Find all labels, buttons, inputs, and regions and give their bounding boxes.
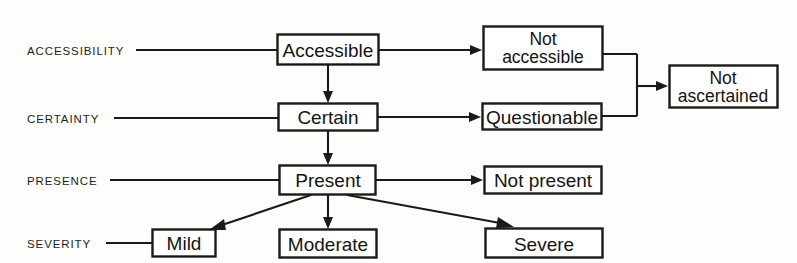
edge-present-to-mild bbox=[222, 195, 311, 225]
node-certain-label: Certain bbox=[297, 107, 358, 128]
node-moderate-label: Moderate bbox=[288, 234, 368, 255]
node-not-ascertained[interactable]: Not ascertained bbox=[670, 66, 778, 108]
arrowhead-certain-to-present bbox=[323, 153, 333, 165]
node-questionable[interactable]: Questionable bbox=[483, 104, 602, 130]
node-present-label: Present bbox=[295, 170, 361, 191]
diagram-canvas: ACCESSIBILITY CERTAINTY PRESENCE SEVERIT… bbox=[0, 0, 797, 263]
row-label-severity: SEVERITY bbox=[27, 238, 91, 250]
row-label-presence: PRESENCE bbox=[27, 175, 97, 187]
arrowhead-present-to-moderate bbox=[323, 217, 333, 229]
node-not-accessible[interactable]: Not accessible bbox=[484, 27, 603, 70]
node-present[interactable]: Present bbox=[280, 166, 376, 195]
node-mild[interactable]: Mild bbox=[153, 230, 216, 257]
node-not-present-label: Not present bbox=[494, 170, 593, 191]
arrowhead-certain-to-questionable bbox=[469, 112, 481, 122]
node-not-accessible-label-line2: accessible bbox=[502, 47, 584, 67]
node-moderate[interactable]: Moderate bbox=[280, 230, 377, 258]
arrowhead-accessible-to-certain bbox=[323, 91, 333, 103]
node-severe[interactable]: Severe bbox=[486, 229, 603, 258]
node-not-accessible-label-line1: Not bbox=[529, 29, 556, 49]
node-not-present[interactable]: Not present bbox=[485, 167, 602, 194]
node-questionable-label: Questionable bbox=[486, 107, 598, 128]
node-not-ascertained-label-line1: Not bbox=[709, 68, 736, 88]
node-not-ascertained-label-line2: ascertained bbox=[678, 86, 768, 106]
arrowhead-present-to-severe bbox=[496, 217, 514, 228]
node-mild-label: Mild bbox=[167, 233, 202, 254]
arrowhead-bracket-to-not-ascertained bbox=[656, 81, 668, 91]
arrowhead-accessible-to-not-accessible bbox=[470, 45, 482, 55]
row-label-certainty: CERTAINTY bbox=[27, 113, 99, 125]
row-label-accessibility: ACCESSIBILITY bbox=[27, 45, 124, 57]
node-certain[interactable]: Certain bbox=[279, 104, 378, 131]
node-accessible-label: Accessible bbox=[283, 40, 374, 61]
edge-present-to-severe bbox=[347, 195, 500, 223]
arrowhead-present-to-not-present bbox=[471, 175, 483, 185]
node-accessible[interactable]: Accessible bbox=[278, 35, 379, 65]
node-severe-label: Severe bbox=[514, 234, 574, 255]
flow-diagram-svg: ACCESSIBILITY CERTAINTY PRESENCE SEVERIT… bbox=[0, 0, 797, 263]
